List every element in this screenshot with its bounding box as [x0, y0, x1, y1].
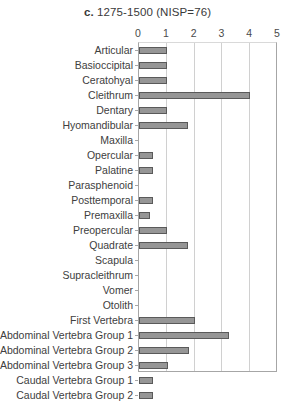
x-tick-label-2: 2 [191, 27, 197, 39]
category-label: Cleithrum [88, 88, 133, 103]
bar-row: Scapula [0, 253, 295, 268]
bar-row: Supracleithrum [0, 268, 295, 283]
bar-row: Abdominal Vertebra Group 3 [0, 358, 295, 373]
bar [139, 197, 153, 204]
chart-title: c. 1275-1500 (NISP=76) [0, 6, 295, 18]
y-tick-mark [135, 305, 138, 306]
y-tick-mark [135, 200, 138, 201]
y-tick-mark [135, 320, 138, 321]
y-tick-mark [135, 95, 138, 96]
bar-row: Abdominal Vertebra Group 1 [0, 328, 295, 343]
category-label: Palatine [95, 163, 133, 178]
bar [139, 152, 153, 159]
y-tick-mark [135, 290, 138, 291]
bar-row: Ceratohyal [0, 73, 295, 88]
bar [139, 167, 153, 174]
bar-row: Premaxilla [0, 208, 295, 223]
y-tick-mark [135, 140, 138, 141]
bar [139, 332, 229, 339]
category-label: Vomer [103, 283, 133, 298]
category-label: Basioccipital [75, 58, 133, 73]
y-tick-mark [135, 110, 138, 111]
bar-row: Preopercular [0, 223, 295, 238]
category-label: Caudal Vertebra Group 1 [16, 373, 133, 388]
bar-row: Abdominal Vertebra Group 2 [0, 343, 295, 358]
category-label: Posttemporal [71, 193, 133, 208]
bar-row: Dentary [0, 103, 295, 118]
x-tick-label-1: 1 [163, 27, 169, 39]
bar-row: Basioccipital [0, 58, 295, 73]
y-tick-mark [135, 380, 138, 381]
y-tick-mark [135, 155, 138, 156]
bar [139, 242, 188, 249]
y-tick-mark [135, 260, 138, 261]
y-tick-mark [135, 365, 138, 366]
chart-title-lead: c. [84, 6, 94, 18]
bar-row: Vomer [0, 283, 295, 298]
bar-row: Palatine [0, 163, 295, 178]
category-label: Opercular [87, 148, 133, 163]
bar [139, 377, 153, 384]
bar-row: Quadrate [0, 238, 295, 253]
y-tick-mark [135, 395, 138, 396]
bar [139, 107, 167, 114]
y-tick-mark [135, 170, 138, 171]
category-label: Ceratohyal [82, 73, 133, 88]
bar-row: Posttemporal [0, 193, 295, 208]
bar [139, 392, 153, 399]
category-label: Preopercular [73, 223, 133, 238]
category-label: Parasphenoid [68, 178, 133, 193]
bar-row: Parasphenoid [0, 178, 295, 193]
category-label: First Vertebra [70, 313, 133, 328]
category-label: Supracleithrum [62, 268, 133, 283]
bar [139, 47, 167, 54]
bar [139, 77, 167, 84]
y-tick-mark [135, 350, 138, 351]
category-label: Premaxilla [84, 208, 133, 223]
y-tick-mark [135, 185, 138, 186]
bar-row: Otolith [0, 298, 295, 313]
bar [139, 212, 150, 219]
category-label: Abdominal Vertebra Group 2 [0, 343, 133, 358]
chart-title-rest: 1275-1500 (NISP=76) [94, 6, 211, 18]
category-label: Caudal Vertebra Group 2 [16, 388, 133, 403]
y-tick-mark [135, 125, 138, 126]
bar-row: Cleithrum [0, 88, 295, 103]
y-tick-mark [135, 215, 138, 216]
x-tick-label-4: 4 [246, 27, 252, 39]
category-label: Otolith [103, 298, 133, 313]
bar-row: Opercular [0, 148, 295, 163]
x-tick-label-3: 3 [218, 27, 224, 39]
y-tick-mark [135, 275, 138, 276]
y-tick-mark [135, 50, 138, 51]
bar [139, 317, 195, 324]
y-tick-mark [135, 230, 138, 231]
category-label: Maxilla [100, 133, 133, 148]
category-label: Abdominal Vertebra Group 3 [0, 358, 133, 373]
category-label: Hyomandibular [62, 118, 133, 133]
bar [139, 227, 167, 234]
y-tick-mark [135, 80, 138, 81]
bar-row: Caudal Vertebra Group 1 [0, 373, 295, 388]
x-tick-label-5: 5 [274, 27, 280, 39]
y-tick-mark [135, 245, 138, 246]
bar-rows: ArticularBasioccipitalCeratohyalCleithru… [0, 42, 295, 372]
bar [139, 122, 188, 129]
category-label: Articular [94, 43, 133, 58]
bar-row: First Vertebra [0, 313, 295, 328]
category-label: Abdominal Vertebra Group 1 [0, 328, 133, 343]
bar-row: Caudal Vertebra Group 2 [0, 388, 295, 403]
bar-row: Maxilla [0, 133, 295, 148]
bar [139, 362, 168, 369]
category-label: Quadrate [89, 238, 133, 253]
bar [139, 62, 167, 69]
bar-row: Hyomandibular [0, 118, 295, 133]
category-label: Scapula [95, 253, 133, 268]
bar [139, 92, 250, 99]
x-tick-label-0: 0 [135, 27, 141, 39]
x-axis-tick-labels: 012345 [0, 27, 295, 41]
y-tick-mark [135, 65, 138, 66]
y-tick-mark [135, 335, 138, 336]
bar-row: Articular [0, 43, 295, 58]
